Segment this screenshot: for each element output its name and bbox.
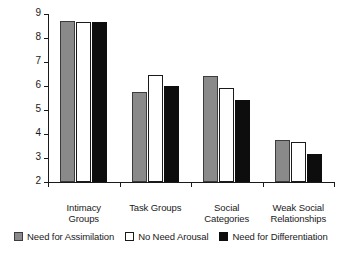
- y-tick-label: 5: [35, 103, 41, 115]
- bar: [164, 86, 179, 182]
- x-tick: [48, 182, 49, 187]
- legend-item: Need for Assimilation: [14, 231, 114, 242]
- x-tick: [191, 182, 192, 187]
- bar: [92, 22, 107, 182]
- bar-group: [263, 14, 335, 182]
- legend-swatch-icon: [125, 232, 134, 241]
- legend-item: Need for Differentiation: [219, 231, 327, 242]
- bar: [235, 100, 250, 182]
- plot-area: 23456789 Intimacy GroupsTask GroupsSocia…: [48, 14, 334, 182]
- y-tick-label: 8: [35, 31, 41, 43]
- x-axis-category-label: Weak Social Relationships: [263, 202, 335, 224]
- bar: [60, 21, 75, 182]
- bar: [148, 75, 163, 182]
- legend-swatch-icon: [14, 232, 23, 241]
- legend-label: Need for Assimilation: [27, 231, 114, 242]
- y-tick-label: 2: [35, 175, 41, 187]
- legend-item: No Need Arousal: [125, 231, 208, 242]
- x-axis-category-label: Social Categories: [191, 202, 263, 224]
- bar: [76, 22, 91, 182]
- bar: [291, 142, 306, 182]
- bar-group: [48, 14, 120, 182]
- x-axis-category-label: Intimacy Groups: [48, 202, 120, 224]
- x-axis-category-label: Task Groups: [120, 202, 192, 213]
- legend-label: No Need Arousal: [138, 231, 208, 242]
- bar: [307, 154, 322, 182]
- bar-group: [120, 14, 192, 182]
- bar-group: [191, 14, 263, 182]
- chart-figure: Perceived Group Importance 23456789 Inti…: [0, 0, 346, 255]
- bar: [132, 92, 147, 182]
- chart-legend: Need for AssimilationNo Need ArousalNeed…: [14, 231, 328, 242]
- bar: [219, 88, 234, 182]
- x-tick: [263, 182, 264, 187]
- y-tick-label: 7: [35, 55, 41, 67]
- legend-swatch-icon: [219, 232, 228, 241]
- x-tick: [120, 182, 121, 187]
- x-tick: [334, 182, 335, 187]
- y-tick-label: 3: [35, 151, 41, 163]
- y-tick-label: 9: [35, 7, 41, 19]
- bar: [203, 76, 218, 182]
- bar: [275, 140, 290, 182]
- legend-label: Need for Differentiation: [232, 231, 327, 242]
- y-tick-label: 4: [35, 127, 41, 139]
- y-tick-label: 6: [35, 79, 41, 91]
